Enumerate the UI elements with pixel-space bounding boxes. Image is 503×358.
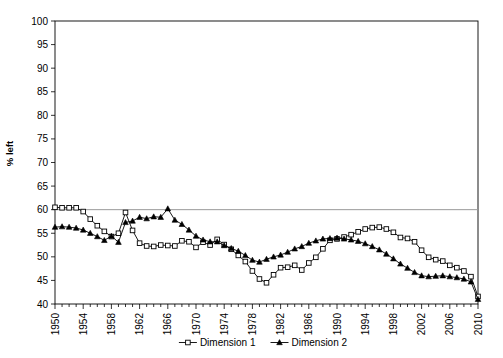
data-point-marker — [377, 225, 382, 230]
y-axis-tick-label: 85 — [37, 86, 49, 97]
y-axis-title: % left — [4, 124, 15, 184]
x-axis-tick-label: 1986 — [303, 313, 314, 336]
x-axis-tick-label: 1994 — [360, 313, 371, 336]
data-point-marker — [455, 265, 460, 270]
data-point-marker — [433, 257, 438, 262]
data-point-marker — [194, 245, 199, 250]
x-axis-tick-label: 1978 — [247, 313, 258, 336]
data-point-marker — [186, 340, 191, 345]
data-point-marker — [391, 230, 396, 235]
y-axis-tick-label: 80 — [37, 110, 49, 121]
legend-label: Dimension 1 — [200, 337, 256, 348]
x-axis-tick-label: 1982 — [275, 313, 286, 336]
x-axis-tick-label: 2006 — [444, 313, 455, 336]
x-axis-tick-label: 1950 — [50, 313, 61, 336]
data-point-marker — [144, 244, 149, 249]
data-point-marker — [307, 261, 312, 266]
figure-top-caption-strip — [0, 0, 503, 12]
x-axis-tick-label: 2002 — [416, 313, 427, 336]
data-point-marker — [243, 259, 248, 264]
data-point-marker — [285, 265, 290, 270]
data-point-marker — [257, 277, 262, 282]
data-point-marker — [74, 205, 79, 210]
y-axis-tick-label: 50 — [37, 251, 49, 262]
data-point-marker — [363, 227, 368, 232]
y-axis-tick-label: 45 — [37, 275, 49, 286]
data-point-marker — [292, 263, 297, 268]
data-point-marker — [384, 227, 389, 232]
data-point-marker — [314, 255, 319, 260]
data-point-marker — [151, 244, 156, 249]
x-axis-tick-label: 1974 — [219, 313, 230, 336]
data-point-marker — [271, 272, 276, 277]
data-point-marker — [299, 268, 304, 273]
chart-svg: 4045505560657075808590951001950195419581… — [0, 0, 503, 358]
data-point-marker — [278, 265, 283, 270]
y-axis-tick-label: 90 — [37, 63, 49, 74]
data-point-marker — [102, 229, 107, 234]
data-point-marker — [187, 239, 192, 244]
data-point-marker — [356, 230, 361, 235]
data-point-marker — [53, 205, 58, 210]
data-point-marker — [88, 217, 93, 222]
y-axis-tick-label: 75 — [37, 133, 49, 144]
data-point-marker — [236, 253, 241, 258]
data-point-marker — [130, 228, 135, 233]
data-point-marker — [419, 248, 424, 253]
y-axis-tick-label: 65 — [37, 181, 49, 192]
data-point-marker — [173, 244, 178, 249]
x-axis-tick-label: 1962 — [134, 313, 145, 336]
data-point-marker — [349, 232, 354, 237]
x-axis-tick-label: 1958 — [106, 313, 117, 336]
data-point-marker — [180, 238, 185, 243]
data-point-marker — [264, 280, 269, 285]
x-axis-tick-label: 1966 — [162, 313, 173, 336]
data-point-marker — [469, 274, 474, 279]
y-axis-tick-label: 40 — [37, 299, 49, 310]
data-point-marker — [321, 247, 326, 252]
x-axis-tick-label: 1998 — [388, 313, 399, 336]
data-point-marker — [462, 269, 467, 274]
y-axis-tick-label: 60 — [37, 204, 49, 215]
data-point-marker — [398, 235, 403, 240]
data-point-marker — [81, 209, 86, 214]
x-axis-tick-label: 1990 — [332, 313, 343, 336]
chart-figure: % left 404550556065707580859095100195019… — [0, 0, 503, 358]
data-point-marker — [60, 205, 65, 210]
data-point-marker — [95, 223, 100, 228]
data-point-marker — [166, 243, 171, 248]
data-point-marker — [370, 225, 375, 230]
data-point-marker — [250, 269, 255, 274]
x-axis-tick-label: 1970 — [191, 313, 202, 336]
data-point-marker — [405, 236, 410, 241]
data-point-marker — [412, 239, 417, 244]
data-point-marker — [116, 231, 121, 236]
data-point-marker — [67, 205, 72, 210]
data-point-marker — [426, 255, 431, 260]
data-point-marker — [137, 241, 142, 246]
y-axis-tick-label: 100 — [31, 16, 48, 27]
y-axis-tick-label: 55 — [37, 228, 49, 239]
data-point-marker — [123, 210, 128, 215]
y-axis-tick-label: 70 — [37, 157, 49, 168]
y-axis-tick-label: 95 — [37, 39, 49, 50]
x-axis-tick-label: 2010 — [473, 313, 484, 336]
data-point-marker — [158, 243, 163, 248]
data-point-marker — [440, 259, 445, 264]
x-axis-tick-label: 1954 — [78, 313, 89, 336]
data-point-marker — [448, 263, 453, 268]
chart-legend: Dimension 1Dimension 2 — [179, 337, 348, 348]
legend-label: Dimension 2 — [292, 337, 348, 348]
